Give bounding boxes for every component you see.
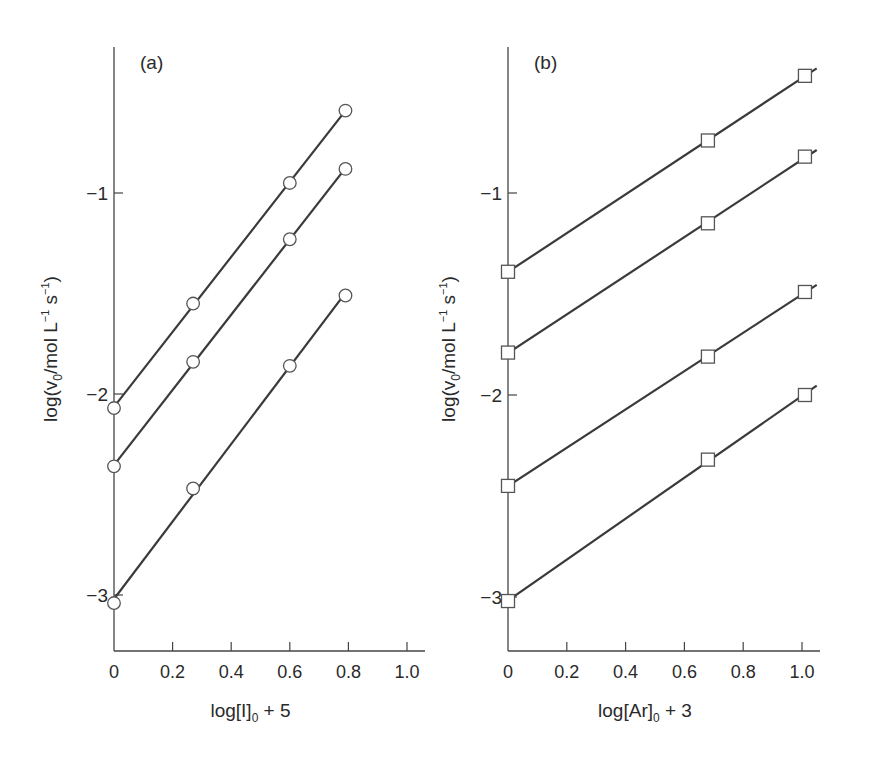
data-point-circle-icon [187,356,200,369]
panel-a-label: (a) [140,52,163,73]
data-point-circle-icon [284,177,297,190]
panel-b: (b) 00.20.40.60.81.0−1−2−3 log[Ar]0 + 3 … [437,47,820,725]
fit-line-series-1 [114,111,345,407]
x-tick-label: 0.8 [731,662,756,682]
data-point-circle-icon [108,460,121,473]
data-point-square-icon [701,350,714,363]
data-point-square-icon [502,265,515,278]
y-tick-label: −3 [480,587,502,608]
panel-a: (a) 00.20.40.60.81.0−1−2−3 log[I]0 + 5 l… [39,47,425,725]
y-tick-label: −2 [480,385,502,406]
fit-line-series-1 [508,68,817,272]
panel-b-lines [508,68,817,600]
x-tick-label: 0 [109,662,119,682]
data-point-square-icon [502,595,515,608]
data-point-circle-icon [108,597,121,610]
data-point-circle-icon [108,402,121,415]
x-tick-label: 1.0 [394,662,419,682]
fit-line-series-3 [508,285,817,486]
data-point-square-icon [798,389,811,402]
x-tick-label: 0.6 [277,662,302,682]
panel-a-axes: 00.20.40.60.81.0−1−2−3 [86,47,425,682]
fit-line-series-2 [114,168,345,465]
data-point-square-icon [798,150,811,163]
data-point-circle-icon [339,104,352,117]
panel-a-lines [114,111,345,599]
x-tick-label: 0.2 [554,662,579,682]
data-point-square-icon [701,217,714,230]
data-point-circle-icon [284,233,297,246]
data-point-square-icon [502,479,515,492]
x-tick-label: 0.6 [672,662,697,682]
data-point-circle-icon [339,289,352,302]
data-point-square-icon [502,346,515,359]
panel-b-axes: 00.20.40.60.81.0−1−2−3 [480,47,820,682]
x-tick-label: 1.0 [789,662,814,682]
x-tick-label: 0 [503,662,513,682]
data-point-circle-icon [187,482,200,495]
data-point-circle-icon [187,297,200,310]
panel-b-xlabel: log[Ar]0 + 3 [598,700,692,725]
panel-a-markers [108,104,352,609]
fit-line-series-2 [508,150,817,353]
fit-line-series-3 [114,293,345,599]
data-point-square-icon [701,453,714,466]
panel-a-ylabel: log(v0/mol L−1 s−1) [39,276,65,422]
data-point-square-icon [798,285,811,298]
fit-line-series-4 [508,386,817,601]
data-point-circle-icon [339,163,352,176]
x-tick-label: 0.4 [613,662,638,682]
data-point-circle-icon [284,360,297,373]
y-tick-label: −2 [86,384,108,405]
x-tick-label: 0.8 [336,662,361,682]
panel-b-label: (b) [534,52,557,73]
data-point-square-icon [701,134,714,147]
chart-figure: (a) 00.20.40.60.81.0−1−2−3 log[I]0 + 5 l… [0,0,871,758]
data-point-square-icon [798,69,811,82]
x-tick-label: 0.2 [160,662,185,682]
x-tick-label: 0.4 [219,662,244,682]
y-tick-label: −1 [480,183,502,204]
y-tick-label: −1 [86,183,108,204]
panel-b-markers [502,69,812,607]
panel-a-xlabel: log[I]0 + 5 [210,700,290,725]
y-tick-label: −3 [86,585,108,606]
panel-b-ylabel: log(v0/mol L−1 s−1) [437,276,463,422]
